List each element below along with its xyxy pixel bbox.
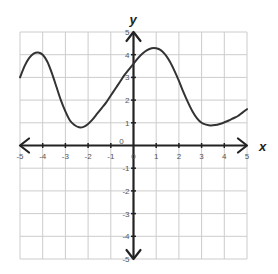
x-tick-label: -5 (16, 152, 24, 161)
x-tick-label: -2 (85, 152, 93, 161)
y-tick-label: -5 (122, 255, 130, 264)
coordinate-plane: -5-4-3-2-1012345-5-4-3-2-1123450 x y (0, 0, 278, 274)
y-tick-label: 5 (125, 28, 130, 37)
origin-label: 0 (119, 137, 124, 146)
x-tick-label: 3 (199, 152, 204, 161)
x-tick-label: -4 (39, 152, 47, 161)
x-tick-label: 1 (154, 152, 159, 161)
y-tick-label: 1 (125, 119, 130, 128)
y-tick-label: -4 (122, 232, 130, 241)
x-tick-label: -3 (62, 152, 70, 161)
y-tick-label: 2 (125, 96, 130, 105)
y-tick-label: -3 (122, 210, 130, 219)
axes (20, 32, 247, 259)
x-tick-label: 4 (222, 152, 227, 161)
x-tick-label: 5 (245, 152, 250, 161)
x-tick-label: -1 (107, 152, 115, 161)
x-tick-label: 2 (177, 152, 182, 161)
y-axis-title: y (129, 12, 138, 27)
y-tick-label: 4 (125, 51, 130, 60)
x-axis-title: x (258, 139, 267, 154)
x-tick-label: 0 (131, 152, 136, 161)
y-tick-label: -2 (122, 187, 130, 196)
y-tick-label: -1 (122, 164, 130, 173)
